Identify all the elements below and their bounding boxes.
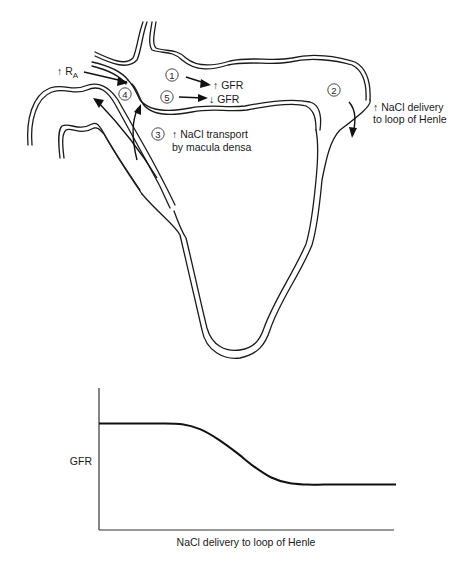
gfr-series-line: [99, 423, 396, 484]
gfr-chart: GFR NaCl delivery to loop of Henle: [0, 0, 468, 563]
x-axis-label: NaCl delivery to loop of Henle: [177, 536, 316, 548]
y-axis-label: GFR: [70, 455, 93, 467]
